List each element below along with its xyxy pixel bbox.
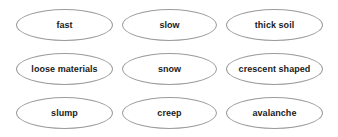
oval-shape[interactable]: slow <box>122 9 217 41</box>
oval-label: thick soil <box>255 21 295 30</box>
oval-shape[interactable]: slump <box>16 97 113 129</box>
oval-word-bank-diagram: fast slow thick soil loose materials sno… <box>0 0 338 137</box>
oval-label: snow <box>158 65 181 74</box>
oval-label: loose materials <box>31 65 97 74</box>
oval-shape[interactable]: thick soil <box>226 9 323 41</box>
oval-label: creep <box>157 109 181 118</box>
oval-label: fast <box>56 21 72 30</box>
oval-shape[interactable]: avalanche <box>226 97 323 129</box>
oval-label: crescent shaped <box>239 65 311 74</box>
oval-label: slow <box>159 21 179 30</box>
oval-label: slump <box>51 109 78 118</box>
oval-shape[interactable]: fast <box>16 9 113 41</box>
oval-shape[interactable]: loose materials <box>16 53 113 85</box>
oval-label: avalanche <box>253 109 297 118</box>
oval-shape[interactable]: snow <box>122 53 217 85</box>
oval-shape[interactable]: crescent shaped <box>226 53 323 85</box>
oval-shape[interactable]: creep <box>122 97 217 129</box>
